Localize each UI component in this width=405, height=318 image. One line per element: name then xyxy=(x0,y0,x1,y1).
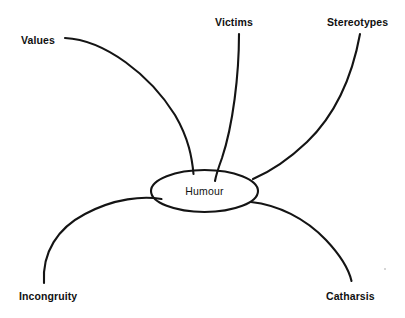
node-label-catharsis: Catharsis xyxy=(326,291,375,302)
branch-line-catharsis xyxy=(251,202,352,281)
branch-line-incongruity xyxy=(44,198,162,283)
center-node-label: Humour xyxy=(185,186,224,197)
branch-lines-group xyxy=(44,34,360,283)
node-label-incongruity: Incongruity xyxy=(19,291,77,302)
scan-speck xyxy=(384,268,386,270)
branch-line-stereotypes xyxy=(253,34,360,179)
node-label-values: Values xyxy=(21,35,55,46)
node-label-victims: Victims xyxy=(215,17,253,28)
diagram-canvas xyxy=(0,0,405,318)
concept-map-diagram: Humour Values Victims Stereotypes Incong… xyxy=(0,0,405,318)
branch-line-values xyxy=(65,38,194,174)
node-label-stereotypes: Stereotypes xyxy=(327,17,388,28)
branch-line-victims xyxy=(215,34,239,181)
